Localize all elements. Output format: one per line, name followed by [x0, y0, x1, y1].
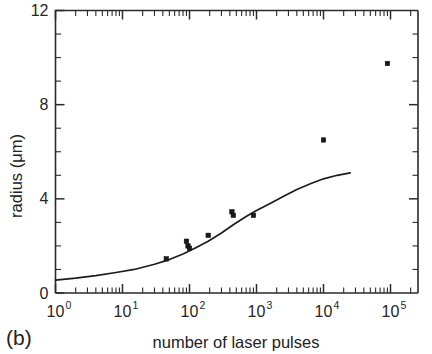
data-point-series [164, 61, 390, 261]
x-tick-label: 105 [382, 299, 407, 320]
svg-text:10: 10 [382, 303, 400, 320]
x-tick-label: 100 [47, 299, 72, 320]
y-tick-label: 8 [40, 96, 49, 113]
y-tick-label: 4 [40, 190, 49, 207]
x-axis-tick-labels: 100101102103104105 [47, 299, 407, 320]
svg-text:3: 3 [267, 299, 273, 311]
x-tick-label: 104 [315, 299, 340, 320]
fit-curve-path [56, 173, 351, 280]
figure-panel-b: radius (μm) number of laser pulses (b) 0… [0, 0, 432, 354]
data-point [206, 233, 210, 237]
data-point [184, 239, 188, 243]
svg-text:10: 10 [315, 303, 333, 320]
y-tick-label: 0 [40, 285, 49, 302]
svg-text:1: 1 [133, 299, 139, 311]
svg-text:10: 10 [181, 303, 199, 320]
model-fit-curve [56, 173, 351, 280]
x-axis-ticks [56, 11, 411, 294]
scatter-plot-radius-vs-pulses: radius (μm) number of laser pulses (b) 0… [0, 0, 432, 354]
x-axis-title: number of laser pulses [153, 333, 320, 351]
axis-spine [56, 11, 419, 294]
panel-label: (b) [6, 326, 32, 349]
svg-text:10: 10 [114, 303, 132, 320]
data-point [187, 246, 191, 250]
svg-text:0: 0 [66, 299, 72, 311]
x-tick-label: 101 [114, 299, 139, 320]
data-point [251, 213, 255, 217]
y-axis-ticks [56, 11, 419, 294]
data-point [164, 257, 168, 261]
svg-text:2: 2 [200, 299, 206, 311]
svg-text:5: 5 [401, 299, 407, 311]
y-axis-title: radius (μm) [7, 134, 25, 218]
svg-text:10: 10 [47, 303, 65, 320]
data-point [321, 138, 325, 142]
svg-text:10: 10 [248, 303, 266, 320]
svg-text:4: 4 [334, 299, 340, 311]
data-point [231, 213, 235, 217]
y-tick-label: 12 [31, 2, 49, 19]
x-tick-label: 103 [248, 299, 273, 320]
data-point [385, 61, 389, 65]
y-axis-tick-labels: 04812 [31, 2, 49, 302]
x-tick-label: 102 [181, 299, 206, 320]
